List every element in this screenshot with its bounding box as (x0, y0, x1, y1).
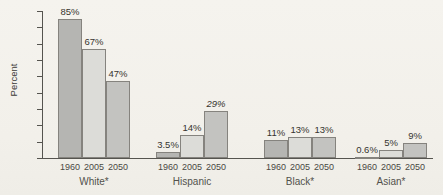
y-tick-mark (37, 60, 42, 61)
population-percent-bar-chart: Percent 85%19603.5%196011%19600.6%196067… (0, 0, 443, 195)
bar-1960-hispanic (156, 152, 180, 158)
bar-value-label: 13% (302, 124, 346, 135)
bar-2005-asian (379, 150, 403, 158)
category-label-hispanic: Hispanic (150, 176, 234, 188)
bar-1960-asian (355, 157, 379, 159)
y-tick-mark (37, 76, 42, 77)
y-axis-title: Percent (8, 50, 20, 110)
bar-value-label: 47% (96, 68, 140, 79)
x-tick-year-label: 2050 (96, 162, 140, 173)
bar-value-label: 9% (393, 130, 437, 141)
y-tick-mark (37, 109, 42, 110)
x-tick-year-label: 2050 (393, 162, 437, 173)
bar-2005-hispanic (180, 135, 204, 158)
bar-2050-white (106, 81, 130, 158)
category-label-black: Black* (258, 176, 342, 188)
x-tick-year-label: 2050 (302, 162, 346, 173)
bar-value-label: 85% (48, 6, 92, 17)
y-tick-mark (37, 44, 42, 45)
category-label-white: White* (52, 176, 136, 188)
category-label-asian: Asian* (349, 176, 433, 188)
bar-2050-hispanic (204, 111, 228, 158)
bar-2005-black (288, 137, 312, 158)
bar-value-label: 29% (194, 98, 238, 109)
y-tick-mark (37, 158, 42, 159)
plot-area: Percent 85%19603.5%196011%19600.6%196067… (0, 0, 443, 195)
y-tick-mark (37, 93, 42, 94)
y-tick-mark (37, 142, 42, 143)
bar-1960-black (264, 140, 288, 158)
y-axis-line (42, 11, 43, 158)
bar-2005-white (82, 49, 106, 158)
x-tick-year-label: 2050 (194, 162, 238, 173)
y-tick-mark (37, 125, 42, 126)
bar-2050-asian (403, 143, 427, 158)
bar-2050-black (312, 137, 336, 158)
y-tick-mark (37, 27, 42, 28)
bar-value-label: 67% (72, 36, 116, 47)
y-tick-mark (37, 11, 42, 12)
